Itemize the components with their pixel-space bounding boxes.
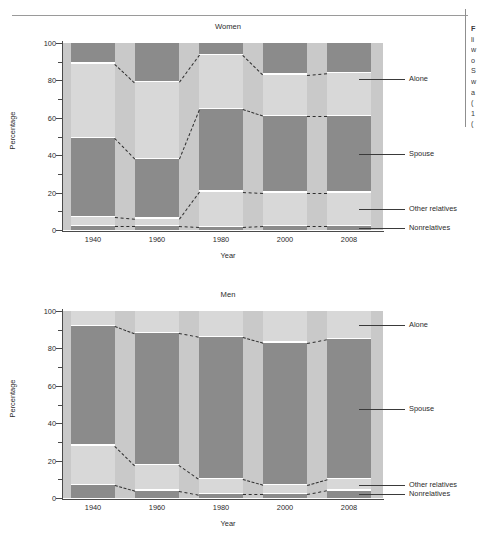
y-axis-tick [56,118,62,119]
y-axis-tick-label: 0 [30,494,56,503]
bar-segment [263,494,307,498]
legend-leader-line [359,79,405,80]
connector-line [115,326,135,334]
bar-men-1960 [135,311,179,498]
segment-separator [135,489,179,490]
bar-segment [199,337,243,479]
bar-segment [135,491,179,498]
bar-segment [327,43,371,73]
y-axis-line [62,309,63,500]
legend-label-spouse: Spouse [409,149,434,158]
y-axis-tick-label: 80 [30,76,56,85]
connector-line [243,226,263,228]
bar-men-1980 [199,311,243,498]
y-axis-tick-label: 100 [30,307,56,316]
x-axis-tick-label: 1940 [63,235,123,244]
connector-line [307,339,327,344]
x-axis-tick-label: 1980 [191,235,251,244]
connector-line [243,192,263,194]
chart-title: Women [168,22,288,31]
segment-separator [135,332,179,333]
connector-line [179,109,200,159]
connector-line [179,333,199,338]
connector-line [179,55,200,83]
x-axis-tick-label: 1980 [191,503,251,512]
y-axis-minor-tick [58,367,62,368]
bar-segment [135,43,179,82]
bar-segment [263,116,307,193]
connector-line [242,55,263,75]
y-axis-minor-tick [58,62,62,63]
y-axis-label: Percentage [8,101,17,161]
y-axis-tick-label: 20 [30,189,56,198]
bar-segment [263,193,307,227]
bar-segment [263,343,307,485]
segment-separator [199,190,243,191]
connector-line [243,479,263,486]
connector-line [307,479,327,486]
bar-women-1940 [71,43,115,230]
segment-separator [199,493,243,494]
connector-line [243,109,263,116]
segment-separator [135,158,179,159]
y-axis-tick-label: 0 [30,226,56,235]
y-axis-label: Percentage [8,369,17,429]
bar-segment [71,326,115,446]
bar-women-1980 [199,43,243,230]
x-axis-label: Year [168,519,288,528]
legend-label-other-relatives: Other relatives [409,480,457,489]
legend-leader-line [359,154,405,155]
y-axis-tick-label: 60 [30,114,56,123]
connector-line [307,226,327,227]
segment-separator [327,489,371,490]
page-root: FliwoSwa(1( WomenPercentageYear020406080… [0,0,482,544]
segment-separator [263,493,307,494]
bar-segment [263,226,307,230]
legend-label-nonrelatives: Nonrelatives [409,489,450,498]
segment-separator [263,115,307,116]
connector-line [307,73,327,76]
bar-segment [263,311,307,343]
segment-separator [263,191,307,192]
y-axis-minor-tick [58,442,62,443]
bar-men-2008 [327,311,371,498]
segment-separator [327,115,371,116]
connector-line [114,138,135,159]
y-axis-minor-tick [58,137,62,138]
x-axis-tick-label: 2000 [255,235,315,244]
y-axis-tick [56,386,62,387]
segment-separator [135,225,179,226]
bar-segment [135,311,179,333]
connector-line [114,64,135,83]
plot-area [63,43,383,230]
y-axis-minor-tick [58,211,62,212]
segment-separator [135,464,179,465]
segment-separator [263,484,307,485]
legend-label-other-relatives: Other relatives [409,204,457,213]
y-axis-tick [56,193,62,194]
segment-separator [199,478,243,479]
x-axis-tick-label: 1960 [127,235,187,244]
segment-separator [263,73,307,74]
x-axis-tick-label: 1960 [127,503,187,512]
y-axis-tick [56,230,62,231]
bar-segment [199,109,243,191]
legend-leader-line [359,325,405,326]
segment-separator [327,478,371,479]
y-axis-minor-tick [58,330,62,331]
y-axis-tick-label: 40 [30,151,56,160]
legend-leader-line [359,494,405,495]
y-axis-tick [56,348,62,349]
bar-segment [71,43,115,64]
legend-label-spouse: Spouse [409,404,434,413]
bar-women-2008 [327,43,371,230]
bar-men-2000 [263,311,307,498]
bar-segment [71,446,115,485]
connector-line [115,485,135,492]
y-axis-tick-label: 100 [30,39,56,48]
connector-line [115,217,135,220]
legend-leader-line [359,485,405,486]
bar-men-1940 [71,311,115,498]
segment-separator [199,336,243,337]
segment-separator [263,225,307,226]
